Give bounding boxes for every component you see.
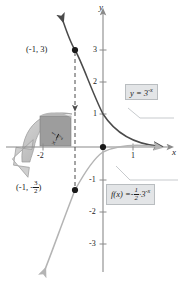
- curve-f-x: [44, 145, 158, 272]
- paren-close: ): [39, 182, 42, 192]
- callout-eq: =: [136, 88, 142, 98]
- point-lower-x: -1: [19, 182, 26, 192]
- callout-lhs: f(x): [111, 189, 123, 199]
- point-upper-label: (-1, 3): [26, 45, 47, 54]
- plot-points: [72, 47, 106, 193]
- point-upper-x: -1: [29, 44, 36, 54]
- callout-f-equation: f(x) =- 1 2 ·3-x: [106, 184, 155, 205]
- callout-lhs: y: [130, 88, 134, 98]
- comma: ,: [26, 182, 28, 192]
- y-tick--3: -3: [89, 240, 96, 248]
- y-tick--1: -1: [89, 176, 96, 184]
- point-lower-dot: [72, 187, 78, 193]
- paren-close: ): [44, 44, 47, 54]
- y-axis-label: y: [99, 3, 103, 12]
- y-tick-1: 1: [93, 110, 97, 118]
- callout-exponent: -x: [148, 87, 153, 93]
- callout-y-equation: y = 3-x: [125, 84, 158, 100]
- exponential-function-graph: y x -2 1 1 2 3 -1 -2 -3 (-1, 3) (-1, - 3…: [0, 0, 188, 284]
- x-tick-1: 1: [131, 152, 135, 160]
- y-tick--2: -2: [89, 208, 96, 216]
- callout-exponent: -x: [145, 188, 150, 194]
- point-origin-dot: [100, 144, 106, 150]
- comma: ,: [36, 44, 38, 54]
- x-tick--2: -2: [37, 152, 44, 160]
- point-upper-dot: [72, 47, 78, 53]
- y-tick-3: 3: [93, 46, 97, 54]
- curve-y-3-pow-neg-x: [62, 18, 158, 146]
- y-tick-2: 2: [93, 78, 97, 86]
- point-lower-label: (-1, - 3 2 ): [16, 180, 41, 195]
- x-axis-label: x: [172, 148, 176, 157]
